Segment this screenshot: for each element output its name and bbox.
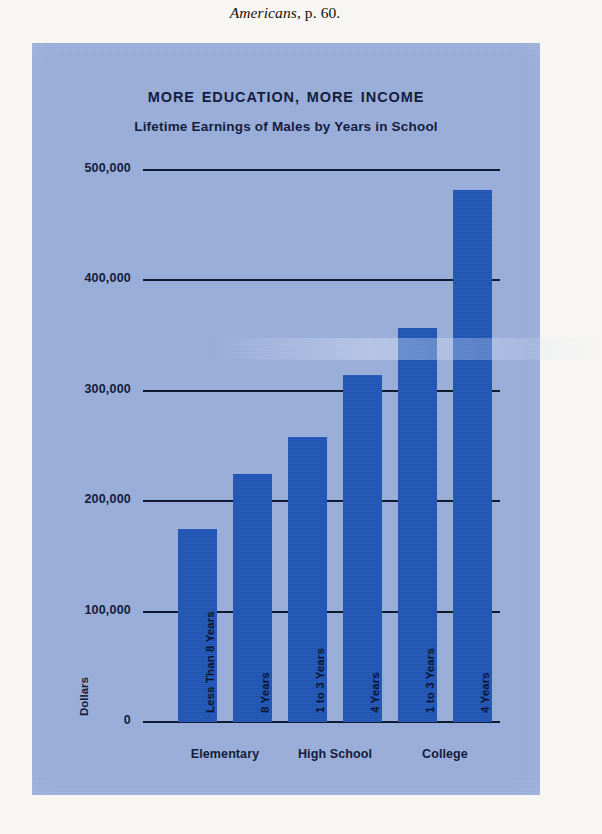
- bar-label: 1 to 3 Years: [424, 648, 436, 713]
- bar-label: 1 to 3 Years: [314, 648, 326, 713]
- y-axis-title: Dollars: [78, 677, 90, 716]
- bar-label: 4 Years: [479, 672, 491, 713]
- gridline: [143, 169, 500, 171]
- group-label: College: [375, 747, 515, 761]
- caption-source-title: Americans,: [230, 4, 301, 21]
- bar: [453, 190, 492, 722]
- bar: [343, 375, 382, 722]
- page-caption: Americans, p. 60.: [0, 4, 570, 22]
- y-axis-tick-label: 100,000: [31, 603, 131, 617]
- y-axis-tick-label: 400,000: [31, 271, 131, 285]
- chart-panel: MORE EDUCATION, MORE INCOME Lifetime Ear…: [32, 43, 540, 795]
- gridline: [143, 279, 500, 281]
- y-axis-tick-label: 200,000: [31, 492, 131, 506]
- gridline: [143, 390, 500, 392]
- plot-area: 0100,000200,000300,000400,000500,000 Les…: [32, 43, 540, 795]
- bar-label: 4 Years: [369, 672, 381, 713]
- bar-label: 8 Years: [259, 672, 271, 713]
- bar-label: Less Than 8 Years: [204, 611, 216, 713]
- y-axis-tick-label: 500,000: [31, 161, 131, 175]
- caption-page-number: p. 60.: [301, 4, 340, 21]
- y-axis-tick-label: 300,000: [31, 382, 131, 396]
